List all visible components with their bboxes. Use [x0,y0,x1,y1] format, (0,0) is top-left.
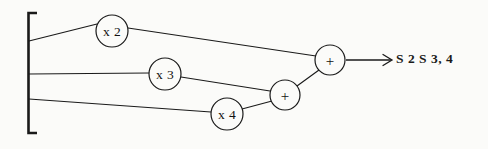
node-mult-x4: x 4 [211,98,243,130]
output-arrow [346,55,392,66]
mult-x3-label: x 3 [156,67,174,82]
edge-mult-x4-to-adder-lower [242,101,272,109]
adder-lower-label: + [281,88,289,104]
edge-mult-x3-to-adder-lower [181,77,270,91]
node-mult-x2: x 2 [96,15,128,47]
mult-x4-label: x 4 [218,107,236,122]
input-bracket [29,13,38,133]
output-label: S 2 S 3, 4 [396,52,453,66]
adder-upper-label: + [326,53,334,69]
edge-input1-to-mult-x2 [29,24,97,41]
mult-x2-label: x 2 [103,24,121,39]
flow-graph-canvas: x 2 x 3 x 4 + + [0,0,488,149]
edge-input2-to-mult-x3 [29,73,149,74]
edge-mult-x2-to-adder-upper [128,28,316,56]
edge-input3-to-mult-x4 [29,99,211,112]
node-adder-lower: + [270,80,300,110]
node-mult-x3: x 3 [149,58,181,90]
signal-flow-figure: x 2 x 3 x 4 + + S 2 S 3, 4 [0,0,488,149]
edge-adder-lower-to-adder-upper [297,70,319,86]
node-adder-upper: + [315,45,345,75]
